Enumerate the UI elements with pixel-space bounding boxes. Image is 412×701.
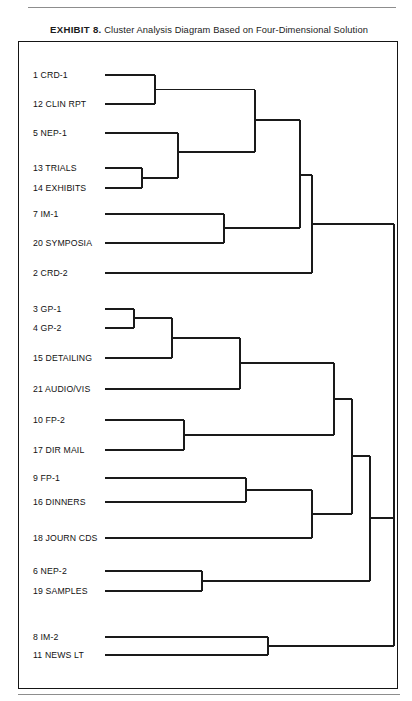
leaf-label-18: 18 JOURN CDS (33, 533, 98, 543)
exhibit-caption: EXHIBIT 8. Cluster Analysis Diagram Base… (18, 24, 400, 35)
leaf-label-8: 8 IM-2 (33, 632, 59, 642)
leaf-label-12: 12 CLIN RPT (33, 99, 86, 109)
leaf-label-5: 5 NEP-1 (33, 128, 67, 138)
leaf-label-15: 15 DETAILING (33, 353, 92, 363)
exhibit-page: EXHIBIT 8. Cluster Analysis Diagram Base… (0, 0, 412, 701)
leaf-label-4: 4 GP-2 (33, 323, 61, 333)
leaf-label-20: 20 SYMPOSIA (33, 238, 92, 248)
top-rule (28, 7, 396, 8)
leaf-label-2: 2 CRD-2 (33, 268, 68, 278)
leaf-label-6: 6 NEP-2 (33, 566, 67, 576)
leaf-label-9: 9 FP-1 (33, 473, 60, 483)
leaf-label-13: 13 TRIALS (33, 163, 77, 173)
exhibit-caption-text: Cluster Analysis Diagram Based on Four-D… (104, 25, 368, 35)
bottom-rule (18, 694, 400, 695)
leaf-label-16: 16 DINNERS (33, 497, 86, 507)
leaf-label-10: 10 FP-2 (33, 415, 65, 425)
leaf-label-1: 1 CRD-1 (33, 70, 68, 80)
leaf-label-19: 19 SAMPLES (33, 586, 88, 596)
leaf-label-11: 11 NEWS LT (33, 650, 84, 660)
leaf-label-3: 3 GP-1 (33, 304, 61, 314)
exhibit-number-label: EXHIBIT 8. (50, 24, 102, 35)
leaf-label-14: 14 EXHIBITS (33, 183, 86, 193)
leaf-label-17: 17 DIR MAIL (33, 445, 84, 455)
leaf-label-21: 21 AUDIO/VIS (33, 384, 90, 394)
leaf-label-7: 7 IM-1 (33, 209, 59, 219)
